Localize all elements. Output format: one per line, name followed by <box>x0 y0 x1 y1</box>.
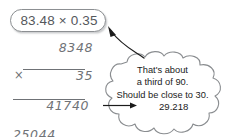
multiplicand-row: 8348 <box>13 40 93 54</box>
worksheet-canvas: 83.48 × 0.35 8348 × 35 41740 25044 29218… <box>0 0 226 137</box>
cloud-line-1: That's about <box>103 64 222 76</box>
right-arrow-icon <box>103 102 137 109</box>
partial-product-1-row: 41740 <box>13 98 93 112</box>
partial-product-1-value: 41740 <box>46 98 89 113</box>
cloud-text-block: That's about a third of 90. Should be cl… <box>103 64 222 115</box>
multiplier-row: × 35 <box>13 68 93 82</box>
result-row: 29.218 <box>103 102 222 115</box>
first-horizontal-rule <box>23 69 85 70</box>
thought-cloud: That's about a third of 90. Should be cl… <box>99 50 226 137</box>
second-horizontal-rule <box>13 99 85 100</box>
partial-product-2-row: 25044 <box>13 127 93 137</box>
long-multiplication-work: 8348 × 35 41740 25044 292180 <box>13 40 93 110</box>
multiplicand-value: 8348 <box>59 40 93 55</box>
pointer-arrow-icon <box>100 18 148 60</box>
expression-pill: 83.48 × 0.35 <box>10 9 106 32</box>
cloud-line-2: a third of 90. <box>103 76 222 88</box>
expression-text: 83.48 × 0.35 <box>11 10 107 33</box>
result-value: 29.218 <box>159 101 188 113</box>
multiplier-value: 35 <box>76 68 93 83</box>
cloud-line-3: Should be close to 30. <box>103 89 222 101</box>
partial-product-2-value: 25044 <box>13 127 56 137</box>
multiplication-operator: × <box>14 68 24 82</box>
